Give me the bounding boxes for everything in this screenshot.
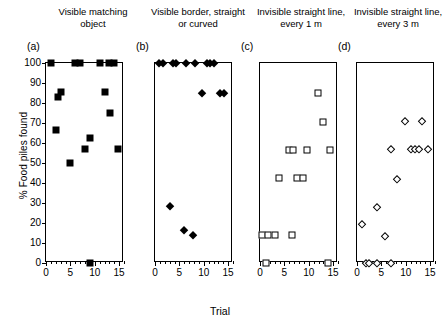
data-point <box>107 110 114 117</box>
y-tick-label: 40 <box>30 178 41 188</box>
x-tick <box>406 261 407 266</box>
data-point <box>52 127 59 134</box>
x-tick <box>338 261 339 264</box>
data-point <box>289 147 296 154</box>
x-tick <box>314 261 315 264</box>
data-point <box>263 260 270 267</box>
y-tick <box>42 83 46 84</box>
x-tick-label: 0 <box>257 268 263 278</box>
x-tick <box>223 261 224 264</box>
x-tick <box>275 261 276 264</box>
panel-title: Invisible straight line, every 3 m <box>350 6 446 29</box>
x-tick <box>56 261 57 264</box>
panel-c: Invisible straight line, every 1 m(c)051… <box>253 0 349 300</box>
plot-area: 0102030405060708090100051015 <box>46 63 122 261</box>
x-tick-label: 10 <box>400 268 411 278</box>
data-point <box>189 231 197 239</box>
data-point <box>381 232 389 240</box>
x-tick <box>420 261 421 264</box>
x-tick <box>184 261 185 264</box>
x-tick <box>119 261 120 266</box>
data-point <box>319 119 326 126</box>
x-tick <box>381 261 382 266</box>
x-tick <box>309 261 310 266</box>
x-tick <box>189 261 190 264</box>
x-tick <box>396 261 397 264</box>
x-tick-label: 10 <box>198 268 209 278</box>
data-point <box>77 60 84 67</box>
data-point <box>115 146 122 153</box>
x-tick <box>270 261 271 264</box>
data-point <box>86 260 93 267</box>
data-point <box>101 89 108 96</box>
x-tick-label: 5 <box>68 268 74 278</box>
x-tick <box>179 261 180 266</box>
data-point <box>96 60 103 67</box>
x-tick <box>435 261 436 264</box>
x-tick <box>170 261 171 264</box>
x-tick <box>204 261 205 266</box>
data-point <box>182 59 190 67</box>
data-point <box>393 175 401 183</box>
x-tick <box>109 261 110 264</box>
x-tick <box>80 261 81 264</box>
plot-box: 051015 <box>154 62 232 262</box>
x-tick <box>105 261 106 264</box>
plot-box: 051015 <box>356 62 434 262</box>
x-tick <box>194 261 195 264</box>
plot-area: 051015 <box>357 63 433 261</box>
y-tick-label: 100 <box>24 58 41 68</box>
x-tick <box>284 261 285 266</box>
x-tick <box>214 261 215 264</box>
data-point <box>418 117 426 125</box>
x-tick-label: 10 <box>303 268 314 278</box>
x-tick-label: 5 <box>177 268 183 278</box>
data-point <box>373 259 381 267</box>
x-tick <box>100 261 101 264</box>
x-tick-label: 15 <box>114 268 125 278</box>
data-point <box>198 89 206 97</box>
plot-box: 0102030405060708090100051015 <box>45 62 123 262</box>
x-tick-label: 0 <box>43 268 49 278</box>
data-point <box>275 175 282 182</box>
data-point <box>325 260 332 267</box>
y-tick-label: 90 <box>30 78 41 88</box>
x-axis-label: Trial <box>0 305 440 317</box>
x-tick-label: 10 <box>89 268 100 278</box>
x-tick <box>333 261 334 266</box>
x-tick <box>218 261 219 264</box>
y-tick <box>42 183 46 184</box>
data-point <box>373 203 381 211</box>
y-tick <box>42 223 46 224</box>
data-point <box>314 90 321 97</box>
data-point <box>159 59 167 67</box>
y-tick <box>42 123 46 124</box>
x-tick-label: 0 <box>354 268 360 278</box>
x-tick <box>233 261 234 264</box>
x-tick <box>160 261 161 264</box>
y-tick-label: 30 <box>30 198 41 208</box>
x-tick <box>357 261 358 266</box>
data-point <box>387 145 395 153</box>
data-point <box>424 145 432 153</box>
data-point <box>111 60 118 67</box>
x-tick <box>425 261 426 264</box>
x-tick <box>51 261 52 264</box>
data-point <box>47 60 54 67</box>
panel-letter: (d) <box>338 40 351 52</box>
x-tick <box>165 261 166 264</box>
y-tick-label: 70 <box>30 118 41 128</box>
y-tick-label: 10 <box>30 238 41 248</box>
x-tick <box>319 261 320 264</box>
data-point <box>288 232 295 239</box>
panel-d: Invisible straight line, every 3 m(d)051… <box>350 0 446 300</box>
panel-title: Visible matching object <box>45 6 141 29</box>
x-tick <box>228 261 229 266</box>
panel-letter: (a) <box>27 40 40 52</box>
data-point <box>299 175 306 182</box>
x-tick <box>401 261 402 264</box>
x-tick <box>75 261 76 264</box>
y-tick-label: 20 <box>30 218 41 228</box>
panel-letter: (b) <box>136 40 149 52</box>
